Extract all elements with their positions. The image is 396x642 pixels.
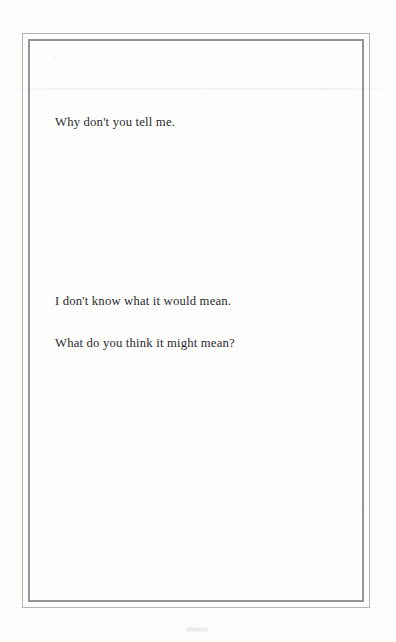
footer-scan-smudge (186, 628, 208, 631)
paragraph-gap-large (55, 133, 325, 291)
paragraph-gap-small (55, 312, 325, 333)
page-text-body: Why don't you tell me. I don't know what… (55, 112, 325, 354)
text-line-3: What do you think it might mean? (55, 333, 325, 354)
text-line-1: Why don't you tell me. (55, 112, 325, 133)
text-line-2: I don't know what it would mean. (55, 291, 325, 312)
scanned-page: Why don't you tell me. I don't know what… (0, 0, 396, 642)
